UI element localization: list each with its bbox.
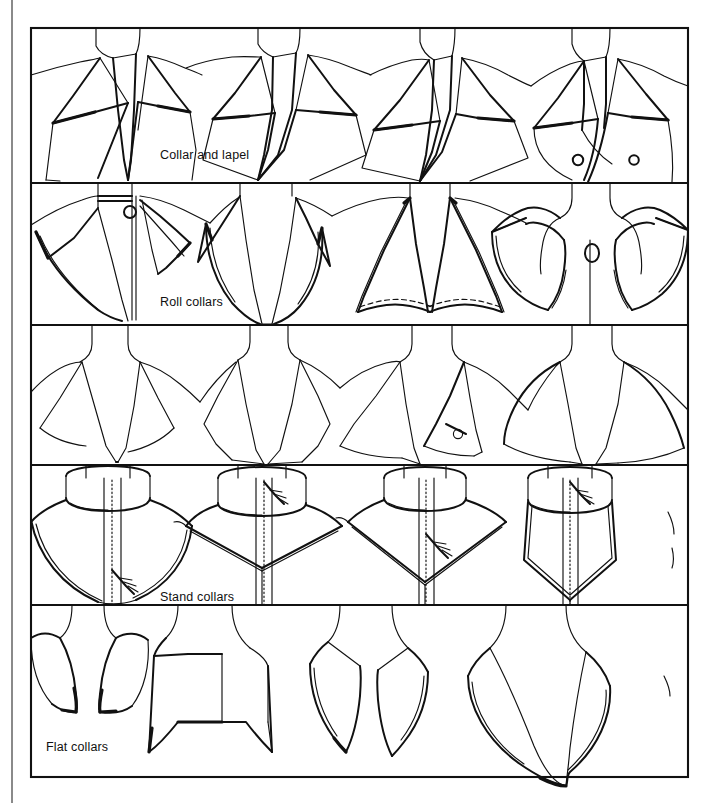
figure-flat-collar-split-round [31, 605, 148, 713]
figure-flat-collar-square-sailor [149, 605, 272, 752]
row-label-flat-collars: Flat collars [46, 740, 108, 754]
figure-stand-collar-shield-yoke [524, 465, 674, 605]
collar-plate-drawing [0, 0, 705, 803]
figure-stand-collar-pointed-yoke [174, 465, 342, 605]
figure-shawl-collar-pointed [200, 325, 340, 464]
figure-flat-collar-long-points [310, 605, 428, 756]
frame-group [31, 28, 688, 777]
illustration-page: Collar and lapel Roll collars Stand coll… [0, 0, 705, 803]
row-label-stand-collars: Stand collars [160, 590, 234, 604]
row-label-roll-collars: Roll collars [160, 295, 223, 309]
figure-shawl-collar-buttoned-tab [340, 325, 528, 464]
figure-stand-collar-round-yoke [31, 465, 192, 605]
figure-double-breasted-lapel-jacket [531, 28, 688, 182]
figure-flat-collar-deep-v [468, 605, 670, 786]
figure-wide-notched-lapel-jacket [362, 28, 531, 181]
figure-shawl-collar-open [31, 325, 200, 462]
figure-roll-collar-round-peter-pan [492, 183, 688, 325]
figure-shawl-collar-wide-cape [504, 325, 688, 464]
row-label-collar-and-lapel: Collar and lapel [160, 148, 249, 162]
figure-stand-collar-v-yoke [336, 465, 506, 605]
